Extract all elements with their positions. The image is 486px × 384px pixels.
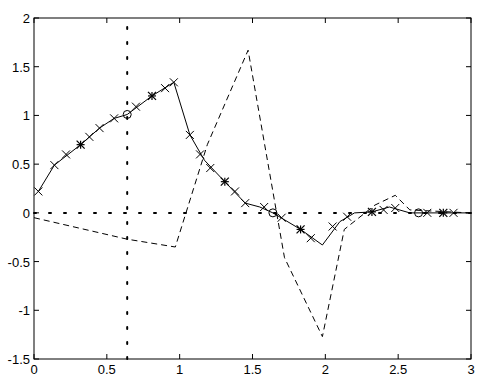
star-marker [439,209,447,217]
chart-background [0,0,486,384]
y-tick-label: 1 [23,108,30,123]
y-tick-label: 1.5 [12,60,30,75]
y-tick-label: -1 [18,303,30,318]
y-tick-label: 0.5 [12,157,30,172]
y-tick-label: 0 [23,206,30,221]
x-tick-label: 3 [467,362,474,377]
y-tick-label: -0.5 [8,255,30,270]
star-marker [77,141,85,149]
star-marker [368,208,376,216]
y-tick-label: -1.5 [8,352,30,367]
star-marker [221,178,229,186]
line-chart: 00.511.522.53-1.5-1-0.500.511.52 [0,0,486,384]
x-tick-label: 0 [30,362,37,377]
x-tick-label: 1.5 [243,362,261,377]
x-tick-label: 2 [322,362,329,377]
x-tick-label: 0.5 [98,362,116,377]
y-tick-label: 2 [23,11,30,26]
x-tick-label: 1 [176,362,183,377]
star-marker [148,92,156,100]
star-marker [297,225,305,233]
x-tick-label: 2.5 [389,362,407,377]
